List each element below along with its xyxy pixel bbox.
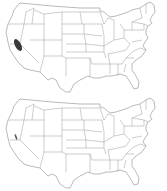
highlight-region-bottom <box>14 134 18 141</box>
us-map-top <box>0 0 167 95</box>
map-panel-bottom <box>0 96 167 191</box>
map-panel-top <box>0 0 167 95</box>
us-map-bottom <box>0 96 167 191</box>
